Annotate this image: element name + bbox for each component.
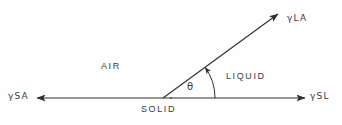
gamma-sl-label: γSL (310, 92, 330, 101)
theta-angle-label: θ (187, 82, 193, 92)
contact-angle-diagram: γLA γSA γSL θ AIR LIQUID SOLID (0, 0, 342, 125)
gamma-sa-label: γSA (8, 92, 29, 101)
solid-region-label: SOLID (141, 105, 176, 114)
liquid-region-label: LIQUID (226, 72, 266, 81)
gamma-la-vector-line (163, 14, 278, 98)
air-region-label: AIR (101, 62, 121, 71)
contact-angle-arc (205, 67, 215, 98)
gamma-la-label: γLA (287, 14, 307, 23)
